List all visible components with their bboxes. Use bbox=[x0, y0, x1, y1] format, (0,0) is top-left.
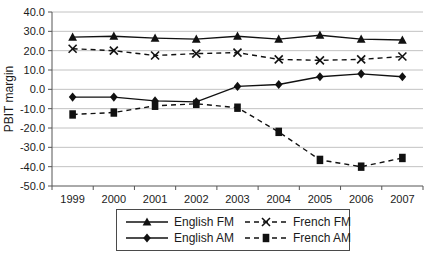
legend-square-sample-icon bbox=[244, 232, 288, 244]
legend-item-french-fm: French FM bbox=[244, 215, 351, 229]
y-tick-label: 10.0 bbox=[24, 64, 45, 76]
legend-x-sample-icon bbox=[244, 216, 288, 228]
french-am-square-marker bbox=[275, 128, 282, 136]
x-tick-label: 2006 bbox=[349, 193, 373, 205]
legend-label: French AM bbox=[293, 231, 351, 245]
y-tick-label: -40.0 bbox=[20, 161, 45, 173]
y-tick-label: -50.0 bbox=[20, 180, 45, 192]
english-am-diamond-marker bbox=[69, 92, 77, 101]
french-am-square-marker bbox=[234, 104, 241, 112]
french-am-square-marker bbox=[69, 110, 76, 118]
legend-triangle-sample-icon bbox=[125, 216, 169, 228]
french-am-square-marker bbox=[193, 100, 200, 108]
legend-label: French FM bbox=[293, 215, 351, 229]
y-tick-label: 20.0 bbox=[24, 45, 45, 57]
legend-item-french-am: French AM bbox=[244, 231, 351, 245]
legend-label: English AM bbox=[174, 231, 234, 245]
english-fm-triangle-marker bbox=[233, 32, 242, 40]
legend-item-english-fm: English FM bbox=[125, 215, 234, 229]
legend-diamond-sample-icon bbox=[125, 232, 169, 244]
x-tick-label: 1999 bbox=[60, 193, 84, 205]
series-line-french-am bbox=[73, 104, 403, 167]
x-tick-label: 2003 bbox=[225, 193, 249, 205]
french-am-legend-square-marker bbox=[263, 234, 270, 242]
french-am-square-marker bbox=[317, 156, 324, 164]
english-am-diamond-marker bbox=[399, 72, 407, 81]
french-am-square-marker bbox=[111, 108, 118, 116]
y-tick-label: -30.0 bbox=[20, 141, 45, 153]
y-tick-label: 40.0 bbox=[24, 6, 45, 18]
x-tick-label: 2001 bbox=[143, 193, 167, 205]
legend-label: English FM bbox=[174, 215, 234, 229]
english-am-diamond-marker bbox=[357, 69, 365, 78]
y-tick-label: 0.0 bbox=[30, 83, 45, 95]
english-am-diamond-marker bbox=[275, 80, 283, 89]
y-tick-label: -10.0 bbox=[20, 103, 45, 115]
legend: English FMFrench FMEnglish AMFrench AM bbox=[116, 209, 350, 251]
english-am-diamond-marker bbox=[316, 72, 324, 81]
y-tick-label: -20.0 bbox=[20, 122, 45, 134]
french-am-square-marker bbox=[358, 162, 365, 170]
x-tick-label: 2004 bbox=[266, 193, 290, 205]
line-chart-figure: 40.030.020.010.00.0-10.0-20.0-30.0-40.0-… bbox=[0, 0, 427, 256]
english-am-legend-diamond-marker bbox=[143, 234, 151, 243]
x-tick-label: 2007 bbox=[390, 193, 414, 205]
legend-item-english-am: English AM bbox=[125, 231, 234, 245]
x-tick-label: 2002 bbox=[184, 193, 208, 205]
french-am-square-marker bbox=[399, 154, 406, 162]
x-tick-label: 2005 bbox=[308, 193, 332, 205]
english-am-diamond-marker bbox=[110, 92, 118, 101]
y-tick-label: 30.0 bbox=[24, 25, 45, 37]
y-axis-title: PBIT margin bbox=[2, 66, 16, 132]
french-am-square-marker bbox=[152, 102, 159, 110]
x-tick-label: 2000 bbox=[102, 193, 126, 205]
